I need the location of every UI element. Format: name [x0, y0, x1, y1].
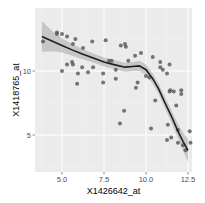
- data-point: [188, 129, 192, 133]
- data-point: [104, 38, 108, 42]
- data-point: [153, 98, 157, 102]
- data-point: [86, 70, 90, 74]
- data-point: [133, 54, 137, 58]
- data-point: [149, 127, 153, 131]
- data-point: [165, 72, 169, 76]
- x-tick-label: 12.5: [181, 175, 196, 184]
- data-point: [80, 65, 84, 69]
- data-point: [161, 68, 165, 72]
- x-tick-label: 5.0: [57, 175, 67, 184]
- data-point: [41, 40, 45, 44]
- data-point: [136, 81, 140, 85]
- data-point: [179, 88, 183, 92]
- data-point: [176, 141, 180, 145]
- data-point: [158, 60, 162, 64]
- x-axis-title: X1426642_at: [87, 186, 141, 196]
- scatter-chart: 5.07.510.012.5 510 X1426642_at X1418765_…: [0, 0, 205, 203]
- data-point: [101, 81, 105, 85]
- y-axis-title: X1418765_at: [11, 63, 21, 117]
- x-tick-label: 7.5: [99, 175, 109, 184]
- data-point: [91, 65, 95, 69]
- y-tick-label: 10: [23, 67, 31, 76]
- data-point: [172, 89, 176, 93]
- data-point: [65, 34, 69, 38]
- data-point: [139, 51, 143, 55]
- data-point: [71, 42, 75, 46]
- data-point: [110, 59, 114, 63]
- data-point: [122, 109, 126, 113]
- x-tick-label: 10.0: [139, 175, 154, 184]
- data-point: [60, 32, 64, 36]
- y-axis-ticks: 510: [23, 67, 35, 140]
- data-point: [71, 63, 75, 67]
- data-point: [118, 121, 122, 125]
- data-point: [168, 89, 172, 93]
- data-point: [76, 72, 80, 76]
- data-point: [114, 77, 118, 81]
- data-point: [60, 69, 64, 73]
- data-point: [90, 40, 94, 44]
- data-point: [151, 55, 155, 59]
- data-point: [65, 63, 69, 67]
- data-point: [73, 37, 77, 41]
- data-point: [75, 82, 79, 86]
- data-point: [124, 45, 128, 49]
- data-point: [119, 43, 123, 47]
- data-point: [101, 72, 105, 76]
- data-point: [81, 46, 85, 50]
- data-point: [55, 32, 59, 36]
- data-point: [174, 104, 178, 108]
- data-point: [134, 86, 138, 90]
- data-point: [189, 141, 193, 145]
- data-point: [166, 123, 170, 127]
- data-point: [168, 63, 172, 67]
- y-tick-label: 5: [27, 131, 31, 140]
- data-point: [126, 59, 130, 63]
- data-point: [169, 136, 173, 140]
- data-point: [179, 92, 183, 96]
- data-point: [114, 68, 118, 72]
- x-axis-ticks: 5.07.510.012.5: [57, 172, 196, 184]
- data-point: [165, 138, 169, 142]
